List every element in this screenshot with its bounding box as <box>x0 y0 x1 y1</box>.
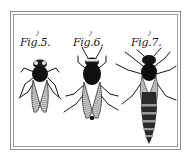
bee-queen-figure <box>116 48 176 144</box>
bee-plate-illustration <box>0 0 192 160</box>
bee-worker-figure <box>64 47 118 120</box>
bee-drone-figure <box>19 60 61 113</box>
